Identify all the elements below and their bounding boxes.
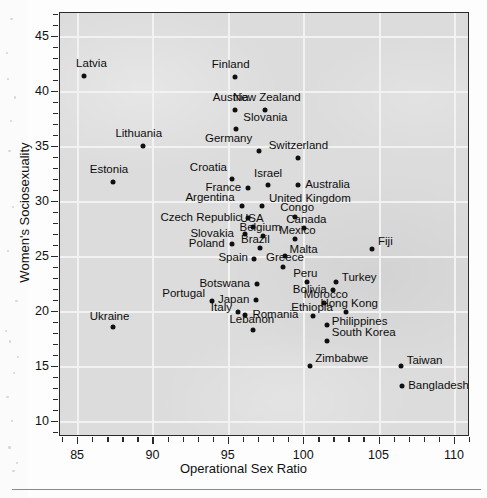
data-point	[253, 297, 258, 302]
data-point	[234, 127, 239, 132]
data-point-label: Zimbabwe	[315, 352, 368, 364]
y-tick-minor	[53, 245, 58, 246]
y-tick-minor	[53, 179, 58, 180]
gridline-horizontal	[60, 421, 468, 423]
data-point-label: Spain	[218, 251, 247, 263]
data-point	[240, 204, 245, 209]
data-point-label: Philippines	[332, 315, 388, 327]
data-point-label: Portugal	[162, 287, 205, 299]
y-tick-minor	[53, 157, 58, 158]
data-point-label: Botswana	[199, 277, 250, 289]
data-point	[140, 143, 145, 148]
data-point	[232, 107, 237, 112]
data-point	[256, 149, 261, 154]
data-point	[110, 180, 115, 185]
x-tick-minor	[198, 437, 199, 442]
y-tick-major	[51, 201, 58, 202]
x-tick-major	[379, 437, 380, 444]
y-tick-major	[51, 256, 58, 257]
y-tick-minor	[53, 47, 58, 48]
data-point	[255, 282, 260, 287]
y-tick-minor	[53, 267, 58, 268]
data-point	[250, 328, 255, 333]
data-point	[370, 247, 375, 252]
data-point	[252, 257, 257, 262]
data-point-label: Congo	[280, 201, 314, 213]
data-point	[296, 155, 301, 160]
data-point	[324, 339, 329, 344]
scatter-plot-figure: LatviaFinlandAustriaNew ZealandSlovaniaL…	[0, 0, 487, 498]
gridline-vertical	[379, 13, 381, 435]
data-point-label: Italy	[211, 301, 232, 313]
y-tick-minor	[53, 377, 58, 378]
data-point-label: Argentina	[185, 191, 234, 203]
y-tick-label: 45	[17, 29, 49, 43]
gridline-horizontal	[60, 36, 468, 38]
data-point-label: Turkey	[342, 271, 377, 283]
x-tick-minor	[288, 437, 289, 442]
x-tick-minor	[318, 437, 319, 442]
x-tick-major	[228, 437, 229, 444]
gridline-horizontal	[60, 201, 468, 203]
x-tick-minor	[122, 437, 123, 442]
data-point-label: Switzerland	[269, 139, 328, 151]
data-point-label: Lebanon	[229, 313, 274, 325]
data-point	[258, 246, 263, 251]
data-point	[82, 73, 87, 78]
x-tick-label: 90	[146, 448, 160, 462]
y-tick-minor	[53, 388, 58, 389]
data-point	[110, 325, 115, 330]
x-tick-minor	[92, 437, 93, 442]
x-tick-minor	[258, 437, 259, 442]
x-tick-label: 100	[293, 448, 314, 462]
data-point-label: Mexico	[279, 224, 315, 236]
gridline-vertical	[77, 13, 79, 435]
y-tick-minor	[53, 300, 58, 301]
y-tick-minor	[53, 399, 58, 400]
y-tick-minor	[53, 333, 58, 334]
data-point-label: South Korea	[332, 326, 396, 338]
x-axis-title: Operational Sex Ratio	[0, 461, 487, 476]
x-tick-label: 85	[70, 448, 84, 462]
data-point-label: Poland	[189, 237, 225, 249]
plot-area-wrapper: LatviaFinlandAustriaNew ZealandSlovaniaL…	[0, 0, 487, 498]
data-point-label: Lithuania	[115, 127, 162, 139]
data-point	[246, 185, 251, 190]
data-point	[324, 322, 329, 327]
y-tick-minor	[53, 410, 58, 411]
gridline-vertical	[454, 13, 456, 435]
y-tick-minor	[53, 102, 58, 103]
y-tick-major	[51, 366, 58, 367]
y-tick-label: 40	[17, 84, 49, 98]
x-tick-minor	[469, 437, 470, 442]
gridline-vertical	[228, 13, 230, 435]
y-tick-minor	[53, 14, 58, 15]
y-tick-major	[51, 91, 58, 92]
x-tick-minor	[394, 437, 395, 442]
page-rule	[12, 489, 481, 490]
data-point-label: Brazil	[241, 233, 270, 245]
data-point	[296, 183, 301, 188]
data-point	[293, 237, 298, 242]
gridline-horizontal	[60, 366, 468, 368]
data-point-label: Ukraine	[90, 310, 130, 322]
data-point	[311, 314, 316, 319]
x-tick-major	[77, 437, 78, 444]
x-tick-label: 105	[368, 448, 389, 462]
x-tick-major	[303, 437, 304, 444]
x-tick-minor	[363, 437, 364, 442]
data-point	[398, 363, 403, 368]
x-tick-minor	[273, 437, 274, 442]
y-tick-minor	[53, 69, 58, 70]
data-point-label: Australia	[305, 178, 350, 190]
plot-panel: LatviaFinlandAustriaNew ZealandSlovaniaL…	[59, 12, 469, 436]
gridline-horizontal	[60, 146, 468, 148]
y-tick-minor	[53, 355, 58, 356]
y-tick-minor	[53, 113, 58, 114]
data-point	[266, 183, 271, 188]
data-point-label: Israel	[254, 167, 282, 179]
data-point-label: Ethiopia	[291, 301, 333, 313]
x-tick-minor	[409, 437, 410, 442]
y-tick-minor	[53, 344, 58, 345]
y-tick-minor	[53, 234, 58, 235]
